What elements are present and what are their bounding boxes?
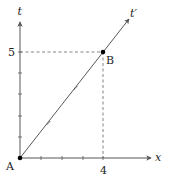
point-b-label: B (106, 54, 114, 67)
spacetime-diagram: t t′ x 5 4 B A (0, 0, 169, 182)
x-axis-label: x (155, 151, 162, 164)
x-value-label: 4 (100, 164, 107, 177)
point-a-label: A (5, 160, 15, 173)
t-axis-label: t (18, 5, 23, 18)
t-prime-axis-ticks (47, 86, 78, 125)
point-b (101, 50, 106, 55)
t-value-label: 5 (8, 46, 15, 59)
t-prime-axis-label: t′ (130, 7, 137, 20)
point-a (18, 156, 23, 161)
